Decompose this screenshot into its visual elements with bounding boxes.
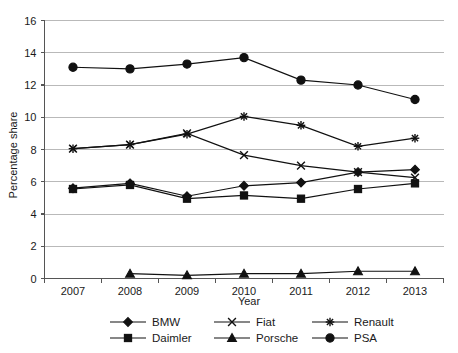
data-point-circle [126, 65, 134, 73]
line-chart: 0246810121416 20072008200920102011201220… [0, 0, 458, 353]
data-point-circle [240, 53, 248, 61]
data-point-square [69, 185, 76, 192]
data-point-square [411, 180, 418, 187]
y-tick-label: 12 [24, 79, 36, 91]
data-point-square [126, 181, 133, 188]
data-point-square [240, 192, 247, 199]
data-point-circle [183, 60, 191, 68]
y-tick-label: 6 [30, 176, 36, 188]
y-tick-label: 14 [24, 47, 36, 59]
data-point-square [297, 195, 304, 202]
legend-label: Renault [354, 316, 394, 328]
chart-canvas: 0246810121416 20072008200920102011201220… [0, 0, 458, 353]
y-tick-label: 2 [30, 240, 36, 252]
x-tick-label: 2011 [289, 285, 313, 297]
data-point-circle [354, 81, 362, 89]
legend-label: BMW [152, 316, 180, 328]
y-tick-label: 8 [30, 144, 36, 156]
data-point-circle [297, 76, 305, 84]
legend-label: Porsche [256, 332, 298, 344]
y-tick-label: 4 [30, 208, 36, 220]
x-tick-label: 2013 [403, 285, 427, 297]
y-tick-label: 16 [24, 15, 36, 27]
data-point-square [183, 195, 190, 202]
x-tick-label: 2007 [61, 285, 85, 297]
x-tick-label: 2008 [118, 285, 142, 297]
legend-label: Daimler [152, 332, 192, 344]
data-point-circle [69, 63, 77, 71]
data-point-circle [411, 95, 419, 103]
x-axis-title: Year [238, 295, 261, 307]
data-point-circle [326, 334, 334, 342]
y-axis-title: Percentage share [7, 112, 19, 199]
data-point-square [124, 334, 131, 341]
data-point-square [354, 185, 361, 192]
y-tick-label: 0 [30, 273, 36, 285]
x-tick-label: 2009 [175, 285, 199, 297]
x-tick-label: 2012 [346, 285, 370, 297]
legend-label: Fiat [256, 316, 276, 328]
y-tick-label: 10 [24, 111, 36, 123]
legend-label: PSA [354, 332, 377, 344]
